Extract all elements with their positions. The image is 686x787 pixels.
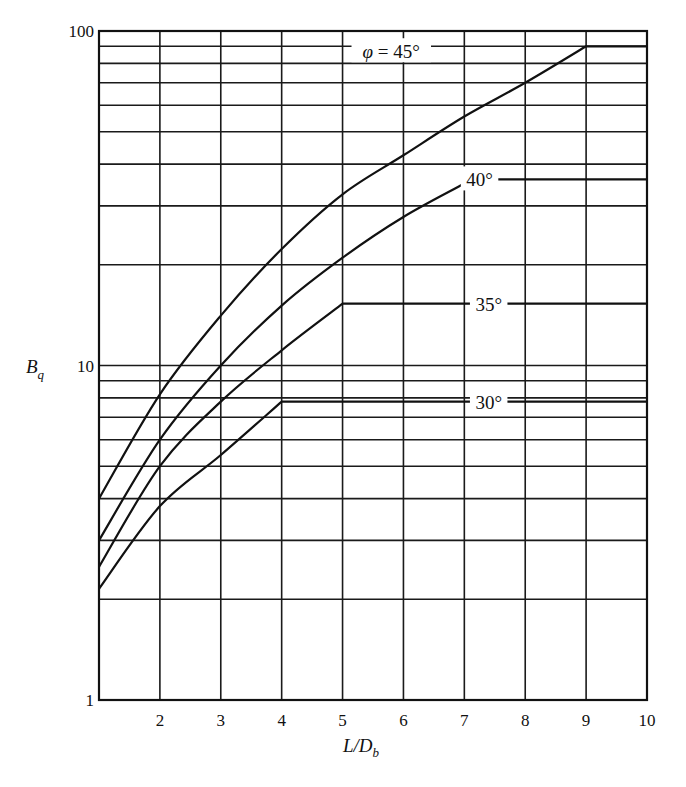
x-tick-label: 4: [277, 711, 286, 730]
x-tick-label: 8: [521, 711, 530, 730]
y-tick-label: 1: [86, 691, 95, 710]
x-tick-label: 7: [460, 711, 469, 730]
curve-30-deg: [99, 402, 647, 589]
y-axis-ticks: 110100: [69, 22, 95, 710]
data-curves: [99, 46, 647, 589]
curve-labels: φ = 45°40°35°30°: [352, 38, 508, 412]
curve-45-deg: [99, 46, 647, 498]
curve-35-deg: [99, 304, 647, 567]
x-tick-label: 10: [639, 711, 656, 730]
x-tick-label: 3: [217, 711, 226, 730]
y-tick-label: 100: [69, 22, 95, 41]
bq-vs-length-ratio-chart: φ = 45°40°35°30° 2345678910 110100 L/Db …: [0, 0, 686, 787]
curve-label: φ = 45°: [363, 41, 420, 62]
curve-label: 40°: [466, 169, 493, 190]
y-tick-label: 10: [77, 357, 94, 376]
x-tick-label: 2: [156, 711, 165, 730]
x-tick-label: 9: [582, 711, 591, 730]
x-tick-label: 5: [338, 711, 347, 730]
x-tick-label: 6: [399, 711, 408, 730]
y-axis-label: Bq: [26, 356, 45, 382]
curve-label: 35°: [475, 294, 502, 315]
curve-label: 30°: [475, 392, 502, 413]
x-axis-label: L/Db: [342, 735, 380, 760]
x-axis-ticks: 2345678910: [156, 711, 656, 730]
